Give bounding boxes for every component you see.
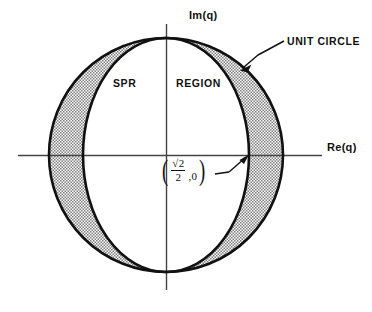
coordinate-denominator: 2	[175, 171, 181, 183]
coordinate-comma-zero: ,0	[188, 170, 197, 185]
real-axis-label: Re(q)	[327, 141, 357, 153]
coordinate-label: ( √2 2 ,0 )	[160, 155, 208, 185]
coordinate-close-paren: )	[199, 155, 205, 185]
coordinate-numerator: √2	[171, 158, 185, 171]
imaginary-axis-label: Im(q)	[189, 9, 217, 21]
coordinate-leader	[215, 155, 249, 175]
spr-label: SPR	[113, 77, 136, 89]
coordinate-open-paren: (	[162, 155, 168, 185]
unit-circle-label: UNIT CIRCLE	[287, 35, 360, 47]
coordinate-fraction: √2 2	[171, 158, 185, 183]
unit-circle-leader	[240, 41, 284, 73]
region-label: REGION	[176, 77, 221, 89]
